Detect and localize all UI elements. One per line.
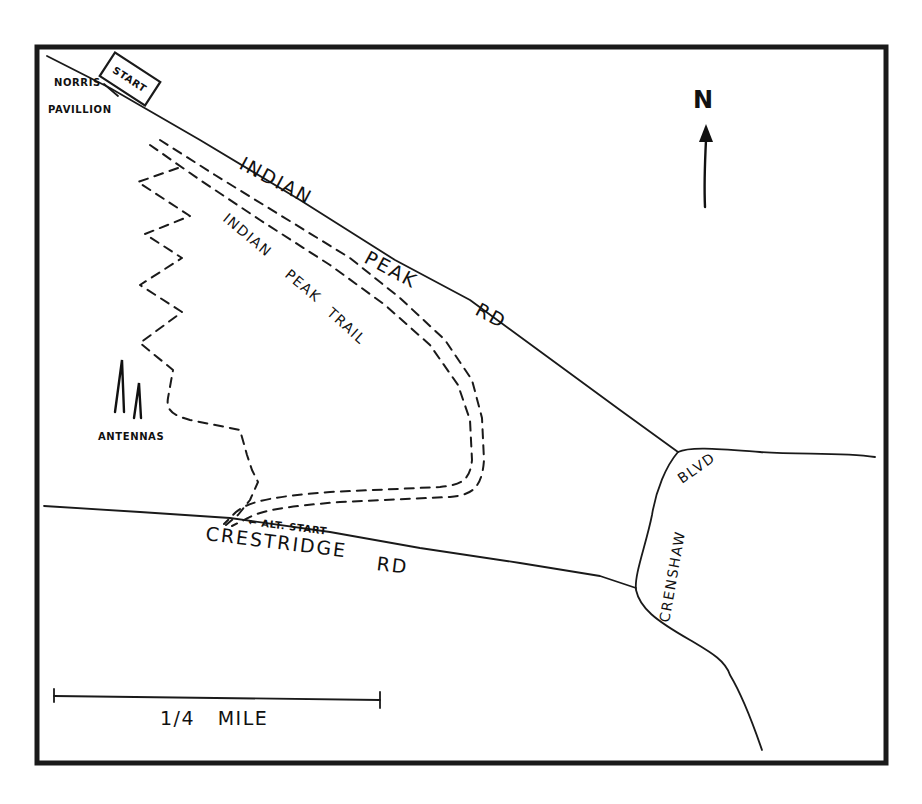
indian-peak-road: [47, 56, 678, 452]
road-label-indian: INDIAN: [236, 152, 316, 209]
trail-map: START NORRIS PAVILLION INDIAN PEAK RD IN…: [0, 0, 922, 804]
trail-label-peak: PEAK: [282, 266, 324, 305]
road-label-rd: RD: [472, 298, 510, 332]
indian-peak-trail-east: [160, 140, 484, 526]
north-label: N: [693, 86, 713, 114]
crenshaw-boulevard: [636, 452, 762, 750]
north-arrow: N: [693, 86, 713, 207]
antennas-label: ANTENNAS: [98, 431, 164, 442]
road-label-crenshaw: CRENSHAW: [656, 529, 688, 623]
north-arrow-shaft: [705, 140, 706, 207]
road-label-blvd: BLVD: [675, 449, 719, 486]
road-label-crestridge-rd: RD: [376, 552, 410, 578]
trail-label-trail: TRAIL: [323, 304, 369, 348]
trail-label-indian: INDIAN: [220, 210, 275, 260]
antennas-icon: [115, 360, 141, 418]
indian-peak-trail-west: [150, 145, 472, 524]
road-label-peak: PEAK: [361, 246, 422, 292]
norris-label: NORRIS: [54, 77, 101, 88]
scale-label: 1/4 MILE: [160, 707, 268, 729]
start-marker[interactable]: START: [100, 53, 161, 106]
scale-bar: 1/4 MILE: [54, 689, 380, 729]
pavillion-label: PAVILLION: [48, 104, 112, 115]
